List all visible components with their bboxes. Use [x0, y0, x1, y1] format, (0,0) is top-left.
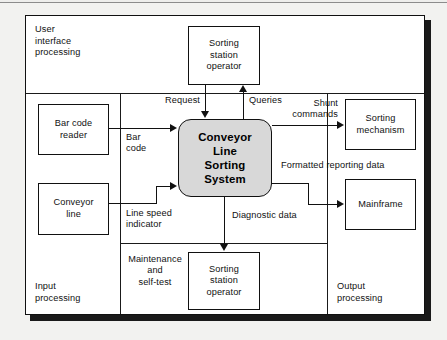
flow-arrow-line-speed [170, 182, 177, 190]
flow-arrow-shunt-commands [337, 121, 344, 129]
page-top-rule [0, 2, 447, 3]
zone-label-input-processing: Input processing [35, 281, 120, 304]
zone-label-user-interface-processing: User interface processing [35, 24, 125, 59]
flow-arrow-queries [239, 85, 247, 92]
node-mainframe[interactable]: Mainframe [345, 179, 416, 230]
flow-label-request: Request [142, 95, 200, 106]
flow-arrow-formatted-reporting-data [337, 200, 344, 208]
node-sorting-station-operator-bottom[interactable]: Sorting station operator [188, 252, 260, 310]
divider-user-interface-band [26, 93, 424, 94]
flow-arrow-request [201, 111, 209, 118]
flow-arrow-diagnostic-data [220, 244, 228, 251]
node-bar-code-reader[interactable]: Bar code reader [38, 104, 109, 155]
diagram-page: User interface processing Input processi… [0, 0, 447, 340]
flow-line-formatted-b [308, 183, 309, 205]
flow-line-request [205, 85, 206, 111]
flow-label-shunt-commands: Shunt commands [265, 98, 338, 121]
flow-line-shunt-commands [272, 125, 340, 126]
node-sorting-mechanism[interactable]: Sorting mechanism [345, 99, 416, 150]
node-conveyor-line[interactable]: Conveyor line [38, 183, 109, 235]
flow-line-line-speed-b [156, 186, 157, 204]
zone-label-output-processing: Output processing [337, 281, 422, 304]
flow-label-bar-code: Bar code [126, 132, 170, 155]
node-sorting-station-operator-top[interactable]: Sorting station operator [188, 26, 260, 85]
flow-line-formatted-c [308, 204, 340, 205]
flow-line-line-speed-a [109, 203, 157, 204]
process-conveyor-line-sorting-system[interactable]: Conveyor Line Sorting System [178, 119, 272, 197]
flow-label-diagnostic-data: Diagnostic data [232, 210, 328, 221]
flow-line-queries [243, 92, 244, 119]
flow-label-formatted-reporting-data: Formatted reporting data [281, 160, 421, 171]
flow-label-maintenance-and-self-test: Maintenance and self-test [124, 254, 186, 288]
flow-arrow-bar-code [170, 124, 177, 132]
flow-label-line-speed-indicator: Line speed indicator [126, 208, 196, 231]
flow-line-formatted-a [272, 183, 309, 184]
flow-line-bar-code [109, 128, 173, 129]
flow-line-diagnostic-data [224, 197, 225, 245]
